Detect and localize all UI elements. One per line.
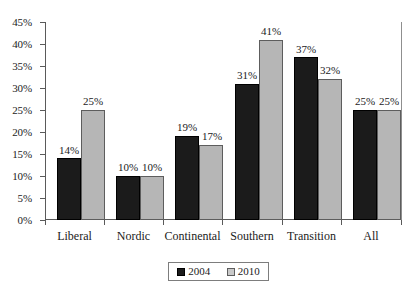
y-axis-tick-label: 40% <box>12 39 32 50</box>
bar-2004-southern <box>235 84 259 220</box>
x-axis-category-label: Transition <box>282 229 341 243</box>
bar-2004-all <box>353 110 377 220</box>
legend-label: 2004 <box>188 266 210 277</box>
bar-value-label: 14% <box>47 145 91 156</box>
x-axis-tick-mark <box>401 220 402 225</box>
bar-2010-liberal <box>81 110 105 220</box>
bar-chart: 45% 40% 35% 30% 25% 20% 15% 10% 5% 0% 14… <box>0 0 414 290</box>
y-axis-tick-label: 30% <box>12 83 32 94</box>
x-axis-tick-mark <box>45 220 46 225</box>
bar-2004-liberal <box>57 158 81 220</box>
bar-value-label: 25% <box>367 96 411 107</box>
bar-2010-transition <box>318 79 342 220</box>
x-axis-category-label: Southern <box>222 229 282 243</box>
bar-value-label: 25% <box>71 96 115 107</box>
x-axis-category-label: Continental <box>163 229 222 243</box>
bar-2004-nordic <box>116 176 140 220</box>
bar-value-label: 31% <box>225 70 269 81</box>
y-axis: 45% 40% 35% 30% 25% 20% 15% 10% 5% 0% <box>0 0 40 290</box>
x-axis-tick-mark <box>104 220 105 225</box>
y-axis-tick-label: 45% <box>12 17 32 28</box>
bar-2010-southern <box>259 40 283 220</box>
bar-value-label: 10% <box>130 162 174 173</box>
y-axis-tick-label: 20% <box>12 127 32 138</box>
y-axis-tick-label: 25% <box>12 105 32 116</box>
y-axis-tick-label: 35% <box>12 61 32 72</box>
bar-2004-continental <box>175 136 199 220</box>
x-axis-tick-mark <box>163 220 164 225</box>
y-axis-tick-label: 15% <box>12 149 32 160</box>
y-axis-tick-label: 10% <box>12 171 32 182</box>
dark-square-swatch-icon <box>177 268 185 276</box>
bar-value-label: 17% <box>190 131 234 142</box>
light-square-swatch-icon <box>227 268 235 276</box>
plot-frame-right-edge <box>401 22 402 221</box>
legend-item-2004: 2004 <box>177 266 210 277</box>
x-axis-category-label: All <box>341 229 401 243</box>
x-axis-tick-mark <box>222 220 223 225</box>
bar-2004-transition <box>294 57 318 220</box>
bar-value-label: 32% <box>308 65 352 76</box>
bar-value-label: 41% <box>249 26 293 37</box>
x-axis-category-label: Nordic <box>104 229 163 243</box>
legend-item-2010: 2010 <box>227 266 260 277</box>
bar-2010-all <box>377 110 401 220</box>
legend-label: 2010 <box>238 266 260 277</box>
x-axis-category-label: Liberal <box>45 229 104 243</box>
bar-2010-nordic <box>140 176 164 220</box>
y-axis-tick-label: 0% <box>18 215 32 226</box>
bar-value-label: 37% <box>284 44 328 55</box>
bar-2010-continental <box>199 145 223 220</box>
x-axis-tick-mark <box>341 220 342 225</box>
x-axis-tick-mark <box>282 220 283 225</box>
chart-legend: 2004 2010 <box>168 262 269 281</box>
y-axis-tick-label: 5% <box>18 193 32 204</box>
